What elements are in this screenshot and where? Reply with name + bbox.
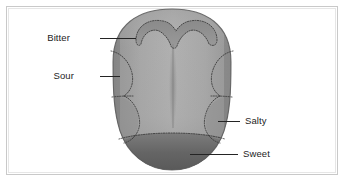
label-bitter: Bitter — [47, 32, 70, 43]
taste-map-figure: Bitter Sour Salty Sweet — [0, 0, 344, 181]
tongue-edge-shadow-right — [224, 10, 238, 176]
label-sour: Sour — [54, 70, 74, 81]
tongue-body-group — [108, 4, 238, 176]
label-sweet: Sweet — [243, 148, 270, 159]
tongue-diagram: Bitter Sour Salty Sweet — [0, 0, 344, 181]
label-salty: Salty — [245, 115, 267, 126]
